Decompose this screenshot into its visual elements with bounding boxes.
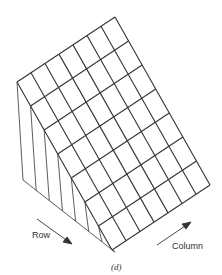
column-arrowhead-icon: [182, 222, 191, 229]
grid-line-column: [101, 26, 196, 194]
grid-line-row: [58, 89, 156, 154]
grid-line-column: [45, 63, 140, 231]
grid-line-row: [44, 65, 142, 130]
grid-line-row: [17, 17, 115, 82]
grid-line-column: [87, 36, 182, 204]
side-vertical-line: [31, 106, 37, 190]
column-label: Column: [172, 241, 203, 251]
row-arrowhead-icon: [63, 237, 72, 244]
grid-line-row: [98, 161, 196, 226]
side-vertical-line: [44, 130, 49, 201]
top-face-grid: [17, 17, 210, 250]
grid-line-column: [17, 82, 112, 250]
figure-caption: (d): [111, 262, 122, 272]
grid-line-row: [71, 113, 169, 178]
grid-line-column: [31, 73, 126, 241]
grid-line-column: [73, 45, 168, 213]
row-label: Row: [32, 230, 51, 240]
grid-line-column: [115, 17, 210, 185]
grid-line-row: [31, 41, 129, 106]
grid-line-row: [85, 137, 183, 202]
side-vertical-line: [58, 154, 63, 211]
side-vertical-line: [17, 82, 23, 180]
wedge-grid-diagram: Row Column (d): [0, 0, 222, 275]
